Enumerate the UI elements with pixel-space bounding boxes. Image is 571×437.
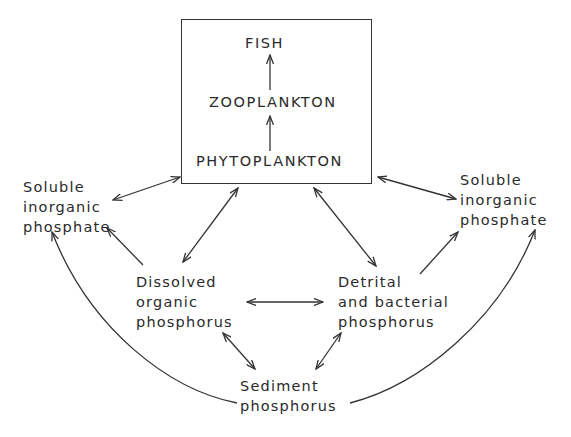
zooplankton-label: ZOOPLANKTON xyxy=(209,92,337,112)
arrow-box-soluble-right xyxy=(378,177,456,199)
arrow-detrital-soluble-right xyxy=(420,232,458,274)
arrow-detrital-sediment xyxy=(316,333,341,369)
soluble-inorganic-phosphate-right: Soluble inorganic phosphate xyxy=(460,170,548,230)
arrow-box-dissolved xyxy=(183,188,238,262)
detrital-bacterial-phosphorus: Detrital and bacterial phosphorus xyxy=(338,272,449,332)
arrow-dissolved-soluble-left xyxy=(107,228,143,265)
sediment-phosphorus: Sediment phosphorus xyxy=(240,376,337,416)
fish-label: FISH xyxy=(245,33,284,53)
arrow-dissolved-sediment xyxy=(223,333,255,369)
dissolved-organic-phosphorus: Dissolved organic phosphorus xyxy=(136,272,233,332)
phosphorus-cycle-diagram: FISH ZOOPLANKTON PHYTOPLANKTON Soluble i… xyxy=(0,0,571,437)
arrow-box-soluble-left xyxy=(113,177,180,200)
soluble-inorganic-phosphate-left: Soluble inorganic phosphate xyxy=(23,177,111,237)
phytoplankton-label: PHYTOPLANKTON xyxy=(196,151,343,171)
arrow-box-detrital xyxy=(314,188,376,266)
